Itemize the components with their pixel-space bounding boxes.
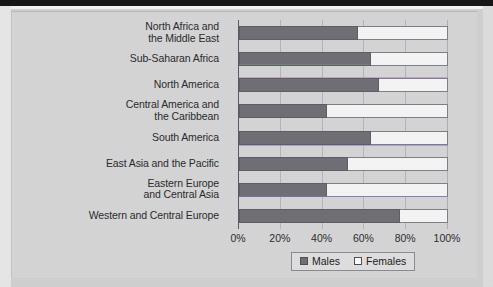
category-label: North America	[9, 79, 219, 91]
category-label-line: Central America and	[126, 98, 219, 110]
x-tick-label: 20%	[269, 232, 290, 244]
category-label: Central America andthe Caribbean	[9, 99, 219, 122]
bar-segment-males[interactable]	[239, 209, 400, 223]
scan-artefact-line	[239, 64, 369, 65]
chart-plot-wrapper: North Africa andthe Middle EastSub-Sahar…	[12, 12, 477, 278]
scan-artefact-line	[239, 196, 448, 197]
bar-row[interactable]	[239, 183, 448, 197]
x-tick-label: 0%	[230, 232, 245, 244]
chart-figure-panel: North Africa andthe Middle EastSub-Sahar…	[11, 11, 477, 278]
scan-artefact-line	[239, 77, 448, 78]
category-label-line: North Africa and	[145, 20, 219, 32]
bar-segment-males[interactable]	[239, 78, 379, 92]
category-label-line: the Middle East	[9, 33, 219, 45]
category-label-line: East Asia and the Pacific	[106, 157, 219, 169]
bar-segment-males[interactable]	[239, 183, 327, 197]
chart-legend: Males Females	[291, 252, 415, 271]
category-label: East Asia and the Pacific	[9, 158, 219, 170]
category-axis-labels: North Africa andthe Middle EastSub-Sahar…	[12, 20, 228, 229]
scan-left-margin	[0, 6, 11, 287]
legend-label-females: Females	[366, 255, 406, 267]
x-tick-label: 100%	[434, 232, 461, 244]
bar-segment-males[interactable]	[239, 131, 371, 145]
bar-segment-males[interactable]	[239, 26, 358, 40]
bar-row[interactable]	[239, 78, 448, 92]
scan-right-margin	[483, 6, 493, 287]
category-label-line: the Caribbean	[9, 111, 219, 123]
category-label-line: Sub-Saharan Africa	[130, 52, 219, 64]
bar-row[interactable]	[239, 157, 448, 171]
scan-artefact-line	[239, 145, 448, 146]
category-label: Western and Central Europe	[9, 210, 219, 222]
bar-segment-males[interactable]	[239, 157, 348, 171]
category-label-line: North America	[154, 78, 219, 90]
legend-swatch-males-icon	[300, 257, 308, 265]
x-axis-tick-labels: 0%20%40%60%80%100%	[238, 229, 453, 245]
category-label-line: Eastern Europe	[147, 177, 219, 189]
x-tick-label: 80%	[395, 232, 416, 244]
category-label: North Africa andthe Middle East	[9, 21, 219, 44]
x-tick-label: 40%	[311, 232, 332, 244]
category-label: Eastern Europeand Central Asia	[9, 178, 219, 201]
bar-row[interactable]	[239, 26, 448, 40]
category-label: Sub-Saharan Africa	[9, 53, 219, 65]
legend-swatch-females-icon	[354, 257, 362, 265]
category-label-line: South America	[152, 131, 219, 143]
legend-label-males: Males	[312, 255, 340, 267]
category-label: South America	[9, 132, 219, 144]
legend-item-females: Females	[354, 255, 406, 267]
plot-area	[238, 20, 448, 229]
bar-row[interactable]	[239, 104, 448, 118]
scan-top-light-band	[0, 6, 493, 9]
bar-segment-males[interactable]	[239, 104, 327, 118]
bar-row[interactable]	[239, 209, 448, 223]
legend-item-males: Males	[300, 255, 340, 267]
x-tick-label: 60%	[353, 232, 374, 244]
category-label-line: Western and Central Europe	[89, 209, 219, 221]
category-label-line: and Central Asia	[9, 189, 219, 201]
bar-row[interactable]	[239, 131, 448, 145]
